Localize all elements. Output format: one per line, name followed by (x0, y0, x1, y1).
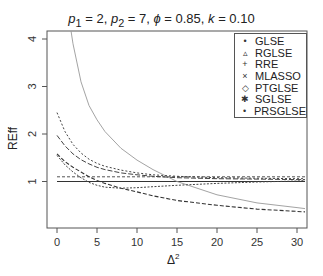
legend-item-rglse: ▵RGLSE (235, 48, 306, 60)
legend-marker-icon: ▵ (235, 48, 255, 59)
legend-item-ptglse: ◇PTGLSE (235, 82, 306, 94)
svg-text:30: 30 (291, 236, 303, 248)
legend-item-mlasso: ×MLASSO (235, 71, 306, 83)
svg-text:15: 15 (171, 236, 183, 248)
legend-item-prsglse: •PRSGLSE (235, 106, 306, 118)
series-line-sglse (57, 113, 305, 179)
svg-text:10: 10 (131, 236, 143, 248)
legend-marker-icon: × (235, 71, 255, 82)
legend-item-sglse: ✱SGLSE (235, 94, 306, 106)
svg-text:5: 5 (94, 236, 100, 248)
series-line-prsglse (57, 135, 305, 179)
svg-text:2: 2 (26, 131, 38, 137)
legend-item-glse: •GLSE (235, 36, 306, 48)
legend-marker-icon: + (235, 59, 255, 70)
y-axis-label: REff (6, 127, 20, 150)
legend-marker-icon: • (235, 106, 254, 117)
legend-marker-icon: ✱ (235, 94, 255, 105)
svg-text:4: 4 (26, 36, 38, 42)
svg-text:0: 0 (54, 236, 60, 248)
svg-text:1: 1 (26, 178, 38, 184)
chart-title: p1 = 2, p2 = 7, ϕ = 0.85, k = 0.10 (0, 11, 323, 29)
svg-text:3: 3 (26, 83, 38, 89)
svg-text:20: 20 (211, 236, 223, 248)
legend-item-rre: +RRE (235, 59, 306, 71)
legend: •GLSE ▵RGLSE +RRE ×MLASSO ◇PTGLSE ✱SGLSE… (234, 33, 307, 118)
svg-text:25: 25 (251, 236, 263, 248)
legend-marker-icon: ◇ (235, 83, 255, 94)
x-axis-label: Δ2 (167, 252, 179, 267)
legend-marker-icon: • (235, 36, 255, 47)
